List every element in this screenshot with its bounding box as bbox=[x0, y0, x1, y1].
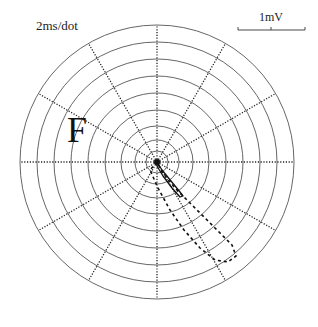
polar-grid bbox=[0, 0, 318, 327]
grid-spoke bbox=[38, 162, 157, 231]
vectorcardiogram-figure: 2ms/dot F 1mV bbox=[0, 0, 318, 327]
grid-spoke bbox=[157, 162, 226, 281]
grid-spoke bbox=[157, 94, 276, 163]
grid-spoke bbox=[89, 162, 158, 281]
grid-spoke bbox=[38, 94, 157, 163]
QRS-loop bbox=[150, 162, 236, 262]
grid-spoke bbox=[89, 43, 158, 162]
voltage-scale-label: 1mV bbox=[259, 10, 283, 25]
T-loop bbox=[157, 162, 183, 197]
time-scale-label: 2ms/dot bbox=[36, 18, 78, 34]
grid-spoke bbox=[157, 162, 276, 231]
origin-dot bbox=[154, 159, 160, 165]
grid-spoke bbox=[157, 43, 226, 162]
lead-label: F bbox=[67, 112, 87, 148]
